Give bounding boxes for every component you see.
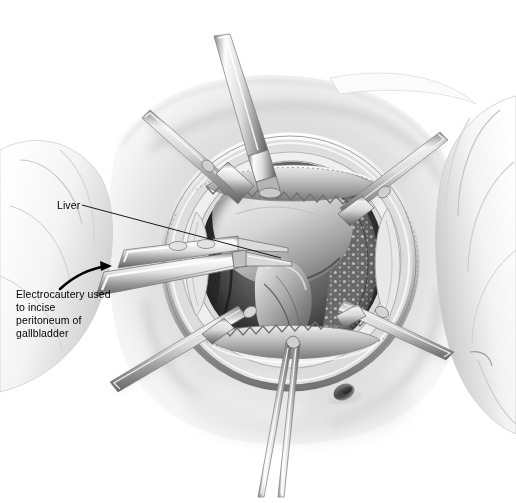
label-liver: Liver bbox=[57, 199, 80, 212]
surgical-illustration-figure: Liver Electrocautery used to incise peri… bbox=[0, 0, 516, 503]
label-electrocautery: Electrocautery used to incise peritoneum… bbox=[16, 288, 111, 340]
illustration-artwork bbox=[0, 0, 516, 503]
